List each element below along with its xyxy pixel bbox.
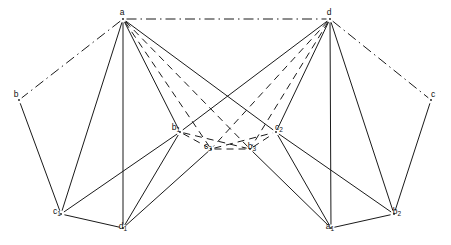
node-label-b: b <box>14 90 19 99</box>
node-point-d <box>329 18 331 20</box>
edge-b1-d1 <box>125 135 178 225</box>
edge-d-c <box>333 21 429 98</box>
edge-d-b1 <box>183 21 327 130</box>
node-label-subscript-a1: 1 <box>331 225 335 232</box>
edge-c3-d1 <box>126 151 209 225</box>
node-label-subscript-b1: 1 <box>177 126 181 133</box>
edge-c2-b2 <box>279 134 391 212</box>
node-label-b2: b2 <box>393 207 401 216</box>
edge-d-c2 <box>278 22 329 129</box>
node-label-subscript-b3: 3 <box>253 145 257 152</box>
node-label-base-a: a <box>120 7 125 17</box>
node-label-subscript-c3: 3 <box>208 145 212 152</box>
diagram-canvas: adbcb1c2c3b3c1d1a1b2 <box>0 0 451 245</box>
edge-a-c1 <box>62 22 122 210</box>
node-point-b <box>18 99 20 101</box>
node-label-subscript-d1: 1 <box>124 225 128 232</box>
edge-a-c3 <box>125 22 209 146</box>
node-label-subscript-b2: 2 <box>398 210 402 217</box>
node-label-b3: b3 <box>248 142 256 151</box>
node-label-d: d <box>327 8 332 17</box>
graph-svg <box>0 0 451 245</box>
node-label-b1: b1 <box>172 123 180 132</box>
node-label-base-d: d <box>327 7 332 17</box>
node-point-a <box>122 18 124 20</box>
node-label-subscript-c2: 2 <box>279 126 283 133</box>
edge-c-b2 <box>395 103 430 210</box>
edge-a1-b2 <box>334 215 390 227</box>
edge-a-b3 <box>125 22 247 147</box>
node-label-c3: c3 <box>204 142 212 151</box>
node-label-d1: d1 <box>119 222 127 231</box>
node-label-base-c: c <box>431 89 435 99</box>
edge-d-b3 <box>252 22 328 146</box>
edge-c2-a1 <box>278 135 330 225</box>
node-label-c: c <box>431 90 435 99</box>
node-label-a1: a1 <box>326 222 334 231</box>
node-label-a: a <box>120 8 125 17</box>
edge-b3-a1 <box>253 151 329 225</box>
edge-layer <box>20 19 430 227</box>
edge-b-c1 <box>20 103 60 210</box>
edge-a-c2 <box>126 21 273 130</box>
node-label-c2: c2 <box>275 123 283 132</box>
node-label-c1: c1 <box>53 207 61 216</box>
node-label-subscript-c1: 1 <box>57 210 61 217</box>
edge-a-b1 <box>125 22 179 129</box>
edge-d-b2 <box>331 22 393 210</box>
edge-c1-d1 <box>64 215 119 227</box>
edge-d-a1 <box>330 22 331 224</box>
edge-c1-b1 <box>64 134 177 212</box>
edge-a-b <box>22 21 120 98</box>
node-label-base-b: b <box>14 89 19 99</box>
node-point-c <box>430 99 432 101</box>
